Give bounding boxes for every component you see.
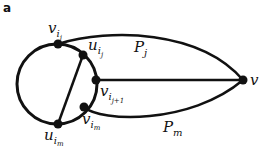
label-v-ij1: vij+1 [100, 82, 124, 105]
node-v [239, 76, 248, 85]
label-v-ij: vij [48, 19, 63, 42]
label-u-ij: uij [88, 36, 104, 59]
label-path-pj: Pj [133, 38, 147, 58]
graph-diagram: vij uij vij+1 vim uim v Pj Pm [0, 0, 274, 149]
label-u-im: uim [44, 126, 64, 148]
node-u-ij [79, 51, 88, 60]
node-u-im [54, 120, 63, 129]
label-v: v [250, 71, 259, 89]
label-path-pm: Pm [162, 118, 183, 138]
chord-edge [58, 55, 83, 124]
